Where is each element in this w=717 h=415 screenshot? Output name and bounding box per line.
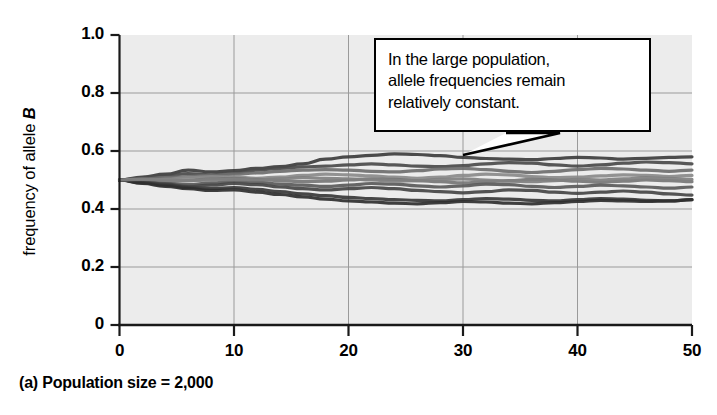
figure-caption: (a) Population size = 2,000 [19,374,213,392]
figure-population-drift-large: In the large population, allele frequenc… [0,0,717,415]
x-tick-label-30: 30 [433,341,493,361]
y-axis-title: frequency of allele B [20,57,39,307]
callout-line-2: allele frequencies remain [388,70,649,91]
y-axis-title-text: frequency of allele [20,119,38,256]
x-tick-label-40: 40 [548,341,608,361]
callout-line-3: relatively constant. [388,92,649,113]
x-tick-label-20: 20 [319,341,379,361]
y-tick-label-0.4: 0.4 [40,198,104,218]
y-tick-label-0: 0 [40,314,104,334]
callout-box: In the large population, allele frequenc… [374,38,651,132]
callout-line-1: In the large population, [388,49,649,70]
x-tick-label-50: 50 [662,341,717,361]
y-tick-label-1.0: 1.0 [40,24,104,44]
y-tick-label-0.2: 0.2 [40,256,104,276]
y-tick-label-0.8: 0.8 [40,82,104,102]
y-tick-label-0.6: 0.6 [40,140,104,160]
x-tick-label-0: 0 [90,341,150,361]
x-tick-label-10: 10 [204,341,264,361]
y-axis-title-allele: B [20,107,38,119]
x-axis-ticks [120,325,693,336]
